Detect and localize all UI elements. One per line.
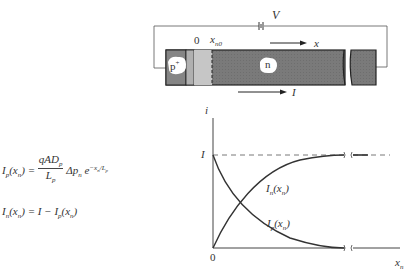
I-level-label: I xyxy=(201,148,205,160)
depletion-region xyxy=(194,50,212,85)
bar-stub xyxy=(350,50,376,85)
origin-label: 0 xyxy=(194,34,200,46)
Ip-curve-label: Ip(xn) xyxy=(267,217,290,232)
voltage-label: V xyxy=(272,8,279,23)
x-axis-break-icon xyxy=(344,245,352,251)
xn0-label: xn0 xyxy=(210,33,222,48)
junction-stripe xyxy=(186,50,194,85)
device-svg xyxy=(0,0,419,110)
n-label: n xyxy=(265,58,271,70)
x-direction-label: x xyxy=(314,37,319,49)
current-direction-label: I xyxy=(292,86,296,98)
p-plus-label: p+ xyxy=(170,59,179,72)
current-graph: i I 0 xn In(xn) Ip(xn) xyxy=(0,100,419,277)
xn-axis-label: xn xyxy=(395,256,403,271)
current-arrow-icon xyxy=(280,90,287,95)
In-curve-label: In(xn) xyxy=(266,182,289,197)
origin-label: 0 xyxy=(210,251,216,263)
device-diagram: V 0 xn0 x I p+ n xyxy=(0,0,419,110)
battery-icon xyxy=(259,22,264,30)
i-axis-label: i xyxy=(205,104,208,116)
x-arrow-icon xyxy=(300,41,307,46)
In-curve xyxy=(213,155,344,248)
